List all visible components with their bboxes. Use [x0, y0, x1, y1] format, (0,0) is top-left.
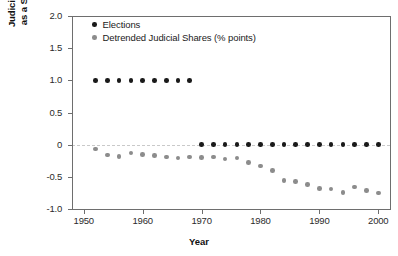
x-axis-tick-label: 1990 [302, 215, 336, 226]
plot-top-border [72, 16, 391, 17]
data-point-shares [235, 156, 240, 161]
plot-right-border [390, 16, 391, 210]
data-point-elections [187, 78, 192, 83]
x-axis-tick-label: 1950 [67, 215, 101, 226]
data-point-shares [199, 155, 204, 160]
x-axis-tick [84, 210, 85, 214]
legend-marker-elections-icon [92, 22, 97, 27]
data-point-elections [258, 142, 263, 147]
data-point-elections [341, 142, 346, 147]
data-point-elections [93, 78, 98, 83]
y-axis-tick-label: -1.0 [36, 203, 62, 214]
x-axis-tick-label: 1980 [243, 215, 277, 226]
data-point-shares [164, 155, 169, 160]
data-point-elections [376, 142, 381, 147]
data-point-shares [293, 179, 298, 184]
data-point-elections [317, 142, 322, 147]
data-point-elections [176, 78, 181, 83]
data-point-elections [305, 142, 310, 147]
data-point-elections [105, 78, 110, 83]
data-point-elections [223, 142, 228, 147]
y-axis-tick-label: -0.5 [36, 171, 62, 182]
y-axis-tick [68, 16, 72, 17]
x-axis-tick-label: 2000 [361, 215, 395, 226]
y-axis-tick [68, 80, 72, 81]
data-point-elections [152, 78, 157, 83]
y-axis-tick-label: 0 [36, 139, 62, 150]
y-axis-title-line2: as a Share of Budget [18, 0, 29, 25]
data-point-elections [352, 142, 357, 147]
x-axis-line [72, 209, 391, 210]
data-point-shares [246, 160, 251, 165]
y-axis-tick-label: 0.5 [36, 107, 62, 118]
x-axis-tick [260, 210, 261, 214]
y-axis-tick-label: 1.5 [36, 42, 62, 53]
data-point-shares [117, 154, 122, 159]
y-axis-tick-label: 2.0 [36, 10, 62, 21]
data-point-shares [352, 185, 357, 190]
data-point-shares [211, 155, 216, 160]
data-point-elections [293, 142, 298, 147]
legend-label: Detrended Judicial Shares (% points) [103, 32, 256, 43]
data-point-elections [282, 142, 287, 147]
x-axis-tick [202, 210, 203, 214]
data-point-elections [246, 142, 251, 147]
x-axis-tick [378, 210, 379, 214]
legend-item-elections: Elections [92, 18, 256, 31]
data-point-elections [164, 78, 169, 83]
y-axis-tick [68, 48, 72, 49]
data-point-elections [364, 142, 369, 147]
data-point-shares [93, 147, 98, 152]
data-point-elections [140, 78, 145, 83]
data-point-shares [223, 157, 228, 162]
data-point-elections [129, 78, 134, 83]
data-point-elections [211, 142, 216, 147]
data-point-shares [258, 164, 263, 169]
legend-item-shares: Detrended Judicial Shares (% points) [92, 31, 256, 44]
legend-marker-shares-icon [92, 35, 97, 40]
chart-figure: Judicial Expenditures as a Share of Budg… [0, 0, 398, 256]
y-axis-title-line1: Judicial Expenditures [6, 0, 17, 27]
data-point-shares [187, 155, 192, 160]
y-axis-title: Judicial Expenditures as a Share of Budg… [6, 0, 30, 44]
y-axis-tick [68, 113, 72, 114]
data-point-shares [329, 187, 334, 192]
data-point-shares [376, 191, 381, 196]
data-point-shares [176, 156, 181, 161]
y-axis-tick [68, 209, 72, 210]
plot-area [72, 16, 390, 209]
data-point-shares [341, 190, 346, 195]
data-point-shares [282, 178, 287, 183]
y-axis-line [72, 16, 73, 210]
data-point-shares [317, 186, 322, 191]
x-axis-tick-label: 1970 [185, 215, 219, 226]
data-point-shares [152, 153, 157, 158]
x-axis-title: Year [0, 236, 398, 247]
data-point-shares [305, 182, 310, 187]
y-axis-tick-label: 1.0 [36, 74, 62, 85]
data-point-shares [364, 188, 369, 193]
data-point-elections [117, 78, 122, 83]
data-point-elections [329, 142, 334, 147]
x-axis-tick-label: 1960 [126, 215, 160, 226]
x-axis-tick [319, 210, 320, 214]
legend-label: Elections [103, 19, 141, 30]
data-point-elections [270, 142, 275, 147]
data-point-shares [270, 168, 275, 173]
data-point-shares [140, 152, 145, 157]
y-axis-tick [68, 177, 72, 178]
data-point-shares [129, 151, 134, 156]
chart-legend: ElectionsDetrended Judicial Shares (% po… [92, 18, 256, 44]
data-point-elections [199, 142, 204, 147]
y-axis-tick [68, 145, 72, 146]
x-axis-tick [143, 210, 144, 214]
data-point-shares [105, 153, 110, 158]
data-point-elections [235, 142, 240, 147]
